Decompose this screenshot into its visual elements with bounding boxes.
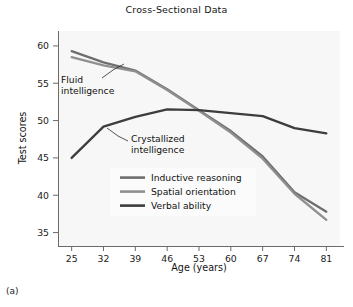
x-tick-label: 32 bbox=[98, 253, 110, 264]
y-tick-label: 50 bbox=[37, 115, 49, 126]
y-axis-ticks bbox=[53, 46, 58, 233]
panel-caption: (a) bbox=[6, 286, 19, 296]
annotation-crystallized-line1: Crystallized bbox=[131, 133, 185, 144]
x-tick-label: 74 bbox=[289, 253, 301, 264]
x-tick-label: 81 bbox=[320, 253, 332, 264]
legend-label: Inductive reasoning bbox=[151, 172, 242, 183]
y-tick-label: 55 bbox=[37, 78, 49, 89]
line-chart: 354045505560 253239465360677481 Test sco… bbox=[0, 0, 353, 275]
x-axis-title: Age (years) bbox=[171, 262, 227, 273]
legend-label: Spatial orientation bbox=[151, 186, 236, 197]
chart-legend: Inductive reasoningSpatial orientationVe… bbox=[110, 168, 256, 216]
x-tick-label: 39 bbox=[129, 253, 141, 264]
y-axis-tick-labels: 354045505560 bbox=[37, 40, 49, 238]
x-tick-label: 67 bbox=[257, 253, 269, 264]
x-tick-label: 25 bbox=[66, 253, 78, 264]
annotation-fluid-line1: Fluid bbox=[61, 74, 83, 85]
annotation-crystallized-line2: intelligence bbox=[131, 144, 185, 155]
y-tick-label: 60 bbox=[37, 40, 49, 51]
annotation-fluid-line2: intelligence bbox=[61, 85, 115, 96]
y-tick-label: 45 bbox=[37, 152, 49, 163]
y-axis-title: Test scores bbox=[17, 112, 28, 166]
y-tick-label: 40 bbox=[37, 190, 49, 201]
chart-plot-area: 354045505560 253239465360677481 Test sco… bbox=[0, 0, 353, 275]
figure-panel-a: Cross-Sectional Data 354045505560 253239… bbox=[0, 0, 353, 307]
legend-label: Verbal ability bbox=[151, 200, 212, 211]
y-tick-label: 35 bbox=[37, 227, 49, 238]
